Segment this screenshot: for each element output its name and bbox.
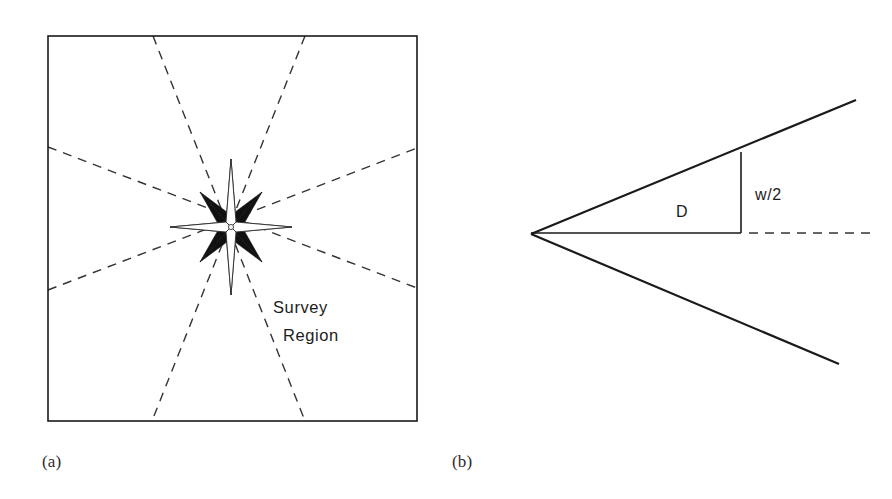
figure-root: Survey Region D w/2 (a) (b)	[0, 0, 892, 499]
panel-b-caption: (b)	[452, 452, 472, 472]
beam-lower-ray	[531, 234, 839, 364]
eight-point-compass-star	[170, 159, 292, 295]
star-point-east-icon-b	[231, 222, 292, 232]
star-point-south-icon-b	[226, 227, 236, 295]
distance-label: D	[676, 203, 688, 220]
panel-a-group: Survey Region	[48, 36, 417, 421]
half-width-label: w/2	[754, 186, 782, 203]
survey-region-label-line2: Region	[283, 326, 339, 344]
panel-a-caption: (a)	[42, 452, 61, 472]
beam-upper-ray	[531, 100, 856, 234]
survey-region-label-line1: Survey	[273, 298, 328, 316]
star-hub-icon	[228, 224, 233, 229]
panel-b-group: D w/2	[531, 100, 876, 364]
diagram-canvas: Survey Region D w/2	[0, 0, 892, 499]
star-point-west-icon-b	[170, 222, 231, 232]
star-point-north-icon-b	[226, 159, 236, 227]
